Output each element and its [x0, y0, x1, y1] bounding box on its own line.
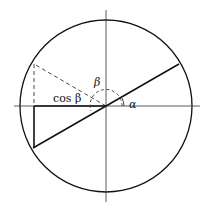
beta-label: β [93, 76, 100, 89]
unit-circle-diagram: β α cos β [0, 0, 209, 209]
alpha-label: α [129, 98, 137, 111]
cos-beta-label: cos β [53, 92, 81, 105]
